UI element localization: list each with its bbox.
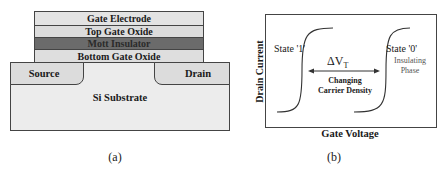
state1-curve	[277, 28, 333, 112]
phase-label: Phase	[388, 66, 432, 75]
state0-label: State '0'	[386, 43, 417, 54]
changing-label: Changing	[310, 76, 380, 85]
y-axis-label: Drain Current	[254, 27, 265, 117]
insulating-label: Insulating	[388, 56, 432, 65]
carrier-density-label: Carrier Density	[305, 86, 385, 95]
x-axis-label: Gate Voltage	[300, 128, 400, 139]
caption-b: (b)	[319, 150, 349, 165]
delta-vt-label: ΔVT	[327, 54, 348, 70]
state1-label: State '1'	[274, 43, 305, 54]
